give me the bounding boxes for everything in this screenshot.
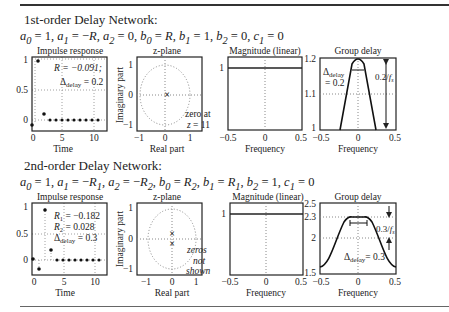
svg-text:0: 0 [23, 255, 28, 265]
svg-text:−1: −1 [141, 277, 151, 287]
svg-text:0.2/fs: 0.2/fs [375, 72, 394, 83]
svg-text:Time: Time [55, 288, 75, 298]
svg-text:0.5: 0.5 [295, 133, 307, 143]
zplane-plot-1: z-plane × 1 0 −1 −1 0 1 Real part Imagin… [115, 46, 211, 154]
svg-text:Frequency: Frequency [338, 144, 378, 154]
svg-text:Group delay: Group delay [334, 46, 381, 56]
zplane-plot-2: z-plane × × 1 0 −1 −1 0 1 Real part Imag… [115, 192, 211, 298]
svg-text:−0.5: −0.5 [312, 133, 329, 143]
svg-text:2.5: 2.5 [304, 199, 316, 209]
group-delay-plot-2: Group delay 2.5 2.3 2 1.5 −0.5 0 0.5 Fre… [304, 192, 401, 298]
svg-text:0: 0 [128, 234, 133, 244]
svg-text:1: 1 [128, 203, 133, 213]
svg-text:Frequency: Frequency [338, 288, 378, 298]
svg-text:1: 1 [128, 60, 133, 70]
svg-text:Δdelay= 0.3: Δdelay= 0.3 [344, 252, 385, 264]
svg-text:Impulse response: Impulse response [37, 192, 103, 202]
svg-text:0: 0 [170, 277, 175, 287]
impulse-plot-2: Impulse response 1 0.5 0 0 5 10 Time R1 … [16, 192, 107, 298]
svg-text:z-plane: z-plane [153, 46, 181, 56]
svg-text:Imaginary part: Imaginary part [115, 211, 125, 268]
svg-text:−1: −1 [134, 133, 144, 143]
svg-text:10: 10 [90, 277, 100, 287]
svg-text:Δdelay = 0.3: Δdelay = 0.3 [54, 233, 98, 245]
svg-text:0.5: 0.5 [295, 277, 307, 287]
impulse-plot-1: Impulse response 1 0.5 0 0 5 10 Time R =… [16, 46, 107, 154]
group-delay-plot-1: Group delay 1.2 1.1 1 −0.5 0 0.5 Frequen… [304, 46, 401, 154]
svg-text:0.5: 0.5 [389, 277, 401, 287]
svg-text:1.2: 1.2 [304, 54, 316, 64]
svg-text:2: 2 [311, 233, 316, 243]
svg-text:0.5: 0.5 [16, 229, 28, 239]
svg-text:×: × [169, 238, 175, 249]
svg-text:Impulse response: Impulse response [37, 46, 103, 56]
svg-text:not: not [193, 256, 206, 266]
svg-text:R = −0.091;: R = −0.091; [53, 63, 102, 73]
svg-text:Magnitude (linear): Magnitude (linear) [232, 192, 304, 203]
svg-text:10: 10 [89, 133, 99, 143]
svg-text:0: 0 [31, 133, 36, 143]
svg-text:0: 0 [356, 277, 361, 287]
svg-text:0.5: 0.5 [16, 85, 28, 95]
svg-text:Δdelay = 0.2: Δdelay = 0.2 [60, 77, 104, 89]
svg-text:0: 0 [32, 277, 37, 287]
svg-text:0: 0 [264, 277, 269, 287]
magnitude-plot-1: Magnitude (linear) 1 −0.5 0 0.5 Frequenc… [219, 46, 307, 154]
svg-text:5: 5 [62, 277, 67, 287]
svg-text:z-plane: z-plane [153, 192, 181, 202]
magnitude-plot-2: Magnitude (linear) 1 −0.5 0 0.5 Frequenc… [221, 192, 307, 298]
svg-text:−0.5: −0.5 [312, 277, 329, 287]
svg-text:1: 1 [311, 123, 316, 133]
svg-text:R1 = −0.182: R1 = −0.182 [53, 211, 100, 222]
svg-text:0: 0 [263, 133, 268, 143]
svg-text:zeros: zeros [186, 245, 207, 255]
svg-text:= 0.2: = 0.2 [325, 78, 345, 88]
svg-text:R2 = 0.028: R2 = 0.028 [53, 222, 95, 233]
svg-text:0: 0 [23, 115, 28, 125]
svg-text:0: 0 [356, 133, 361, 143]
svg-text:Time: Time [53, 144, 73, 154]
svg-text:−0.5: −0.5 [219, 133, 236, 143]
svg-text:Frequency: Frequency [245, 144, 285, 154]
svg-text:−0.5: −0.5 [221, 277, 238, 287]
svg-text:1: 1 [23, 55, 28, 65]
svg-text:0.5: 0.5 [389, 133, 401, 143]
svg-text:1.1: 1.1 [304, 89, 316, 99]
svg-text:1: 1 [221, 209, 226, 219]
figure-canvas: Impulse response 1 0.5 0 0 5 10 Time R =… [0, 0, 449, 312]
svg-text:zero at: zero at [185, 109, 211, 119]
svg-text:Group delay: Group delay [334, 192, 381, 202]
svg-text:2.3: 2.3 [304, 212, 316, 222]
svg-text:Real part: Real part [155, 288, 190, 298]
svg-text:Imaginary part: Imaginary part [115, 67, 125, 124]
svg-text:1: 1 [194, 277, 199, 287]
svg-text:Real part: Real part [150, 144, 185, 154]
svg-text:0.3/fs: 0.3/fs [376, 224, 395, 235]
svg-text:1: 1 [219, 63, 224, 73]
svg-text:1: 1 [188, 133, 193, 143]
svg-text:0: 0 [163, 133, 168, 143]
svg-text:0: 0 [128, 90, 133, 100]
svg-text:z = 11: z = 11 [186, 120, 210, 130]
svg-text:5: 5 [60, 133, 65, 143]
svg-text:×: × [164, 89, 170, 100]
svg-text:1: 1 [23, 202, 28, 212]
svg-text:shown: shown [186, 266, 211, 276]
svg-text:Frequency: Frequency [246, 288, 286, 298]
svg-text:Magnitude (linear): Magnitude (linear) [229, 46, 301, 57]
